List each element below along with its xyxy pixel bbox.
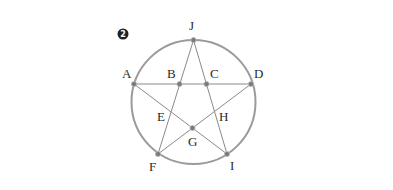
- point-F-marker: [155, 151, 160, 156]
- label-D: D: [254, 66, 263, 81]
- label-F: F: [149, 159, 156, 174]
- label-G: G: [188, 134, 197, 149]
- label-H: H: [219, 109, 228, 124]
- point-G-marker: [190, 125, 195, 130]
- label-I: I: [230, 158, 234, 173]
- point-D-marker: [248, 81, 253, 86]
- label-E: E: [157, 109, 165, 124]
- label-J: J: [189, 18, 194, 33]
- point-A-marker: [131, 81, 136, 86]
- segment-D-F: [158, 84, 251, 154]
- label-A: A: [122, 66, 132, 81]
- point-I-marker: [224, 151, 229, 156]
- segment-J-I: [194, 40, 228, 154]
- point-C-marker: [204, 81, 209, 86]
- problem-number-badge: 2: [118, 29, 129, 40]
- label-B: B: [167, 66, 176, 81]
- label-C: C: [210, 66, 219, 81]
- point-B-marker: [177, 81, 182, 86]
- problem-number: 2: [120, 30, 126, 39]
- point-J-marker: [191, 37, 196, 42]
- pentagram-diagram: 2 J A B C D E H G F I: [0, 0, 393, 190]
